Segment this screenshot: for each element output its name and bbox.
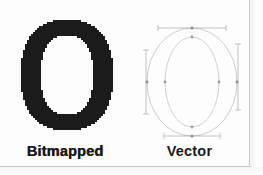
vector-anchor-points-inner (164, 36, 221, 129)
vector-glyph-area (130, 14, 249, 138)
scan-edge-bottom-gradient (0, 167, 263, 175)
vector-inner-contour (165, 37, 219, 127)
figure-bitmapped-vs-vector: Bitmapped (0, 0, 263, 175)
panel-vector: Vector (130, 0, 249, 166)
vector-anchor-points-outer (146, 27, 239, 138)
scan-edge-bottom-line (0, 166, 251, 167)
bitmapped-letter-o (21, 20, 113, 142)
scan-edge-right-gradient (250, 0, 263, 175)
scan-edge-right-line (249, 0, 250, 175)
bitmapped-caption: Bitmapped (0, 143, 130, 159)
panel-bitmapped: Bitmapped (0, 0, 130, 166)
vector-caption: Vector (130, 143, 249, 159)
vector-outer-contour (147, 28, 237, 136)
vector-letter-o (140, 14, 245, 138)
bitmapped-glyph-area (0, 14, 130, 138)
